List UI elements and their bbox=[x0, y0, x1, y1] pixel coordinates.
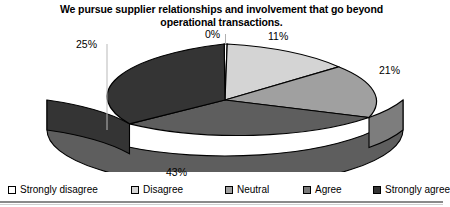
legend-swatch-icon-disagree bbox=[131, 186, 139, 194]
chart-title-line-1: We pursue supplier relationships and inv… bbox=[0, 3, 443, 16]
legend-item-agree[interactable]: Agree bbox=[303, 182, 342, 198]
legend-item-strongly-agree[interactable]: Strongly agree bbox=[373, 182, 450, 198]
legend-swatch-icon-strongly-agree bbox=[373, 186, 381, 194]
data-label-neutral: 21% bbox=[379, 64, 400, 76]
legend-swatch-icon-strongly-disagree bbox=[8, 186, 16, 194]
data-label-agree: 43% bbox=[166, 166, 187, 178]
chart-legend: Strongly disagree Disagree Neutral Agree… bbox=[0, 182, 443, 200]
legend-item-disagree[interactable]: Disagree bbox=[131, 182, 183, 198]
data-label-strongly-disagree: 0% bbox=[205, 28, 220, 40]
figure-bottom-rule-2 bbox=[0, 204, 443, 205]
data-label-disagree: 11% bbox=[268, 30, 288, 42]
legend-swatch-icon-neutral bbox=[225, 186, 233, 194]
legend-label-neutral: Neutral bbox=[237, 184, 269, 196]
legend-label-disagree: Disagree bbox=[143, 184, 183, 196]
data-label-strongly-agree: 25% bbox=[76, 38, 97, 50]
pie-plot-area: 0% 11% 21% 43% 25% bbox=[0, 26, 443, 172]
legend-label-strongly-disagree: Strongly disagree bbox=[20, 184, 98, 196]
legend-label-strongly-agree: Strongly agree bbox=[385, 184, 450, 196]
figure-bottom-rule bbox=[0, 201, 443, 203]
pie-graphic bbox=[0, 26, 443, 172]
legend-label-agree: Agree bbox=[315, 184, 342, 196]
legend-swatch-icon-agree bbox=[303, 186, 311, 194]
legend-item-strongly-disagree[interactable]: Strongly disagree bbox=[8, 182, 98, 198]
legend-item-neutral[interactable]: Neutral bbox=[225, 182, 269, 198]
